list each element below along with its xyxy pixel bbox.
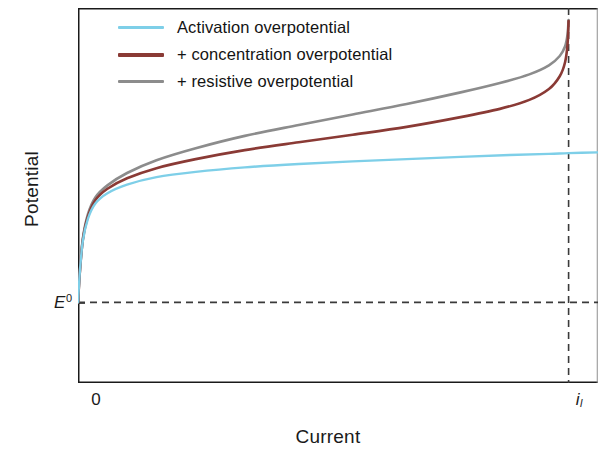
legend-label-resistive: + resistive overpotential (177, 72, 353, 91)
legend-swatch-concentration (118, 53, 164, 57)
curve-activation-overpotential (78, 152, 598, 302)
y-tick-e0-base: E (54, 293, 65, 312)
y-axis-label: Potential (21, 119, 43, 259)
legend-item-activation: Activation overpotential (118, 14, 418, 41)
chart-legend: Activation overpotential + concentration… (118, 14, 418, 95)
legend-item-resistive: + resistive overpotential (118, 68, 418, 95)
legend-swatch-resistive (118, 80, 164, 83)
x-tick-limit-base: i (576, 390, 580, 409)
legend-label-activation: Activation overpotential (177, 18, 350, 37)
legend-swatch-activation (118, 26, 164, 29)
x-tick-label-zero: 0 (82, 390, 110, 410)
legend-item-concentration: + concentration overpotential (118, 41, 418, 68)
x-tick-limit-subscript: l (580, 397, 582, 409)
polarization-curve-figure: Potential E0 Activation overpoten (0, 0, 605, 453)
y-tick-e0-superscript: 0 (66, 292, 72, 304)
x-tick-label-limiting-current: il (566, 390, 592, 410)
y-tick-label-e0: E0 (30, 292, 72, 313)
legend-label-concentration: + concentration overpotential (177, 45, 392, 64)
x-axis-label: Current (78, 426, 578, 448)
